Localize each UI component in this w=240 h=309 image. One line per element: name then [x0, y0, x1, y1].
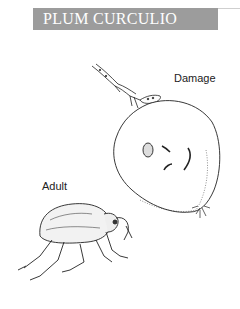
illustration-canvas: [0, 0, 240, 309]
adult-weevil-illustration: [18, 204, 132, 280]
damaged-plum-illustration: [114, 101, 220, 218]
weevil-on-twig-illustration: [92, 64, 161, 108]
